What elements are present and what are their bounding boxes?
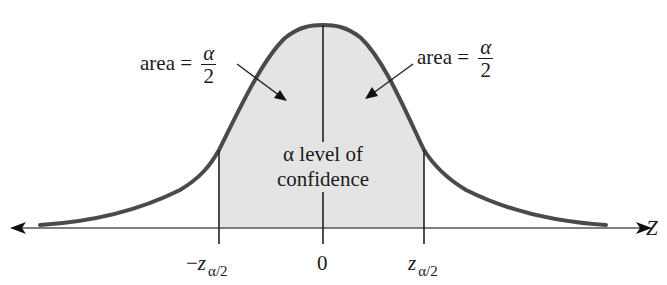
right-area-numerator: α [478,36,493,59]
right-area-prefix: area = [417,45,469,69]
tick-zero: 0 [317,253,328,274]
right-area-label: area = α 2 [417,36,493,82]
confidence-label-line1: α level of [253,142,393,167]
tick-lower-var: z [198,251,206,275]
tick-zero-value: 0 [317,251,328,275]
left-area-prefix: area = [140,51,192,75]
confidence-region-shade [219,25,424,228]
right-area-fraction: α 2 [478,36,493,82]
z-axis-label: Z [646,218,658,239]
left-area-denominator: 2 [201,65,216,88]
right-area-denominator: 2 [478,59,493,82]
left-area-fraction: α 2 [201,42,216,88]
left-area-numerator: α [201,42,216,65]
confidence-label-line2: confidence [253,167,393,192]
left-area-label: area = α 2 [140,42,216,88]
tick-lower-critical: −zα/2 [186,253,228,274]
tick-upper-sub: α/2 [418,263,438,279]
tick-upper-var: z [408,251,416,275]
tick-lower-sign: − [186,251,198,275]
tick-upper-critical: zα/2 [408,253,438,274]
tick-lower-sub: α/2 [208,263,228,279]
confidence-level-label: α level of confidence [253,142,393,192]
